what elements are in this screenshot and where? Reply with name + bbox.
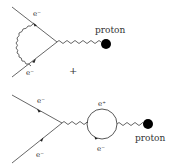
- fermion-loop: [87, 109, 117, 139]
- label-electron-in: e⁻: [36, 151, 44, 159]
- proton-blob: [143, 119, 153, 129]
- arrow-lower-icon: [40, 137, 44, 142]
- fermion-line-lower: [12, 42, 57, 77]
- plus-operator: +: [69, 65, 77, 76]
- label-proton: proton: [95, 25, 126, 35]
- label-loop-electron: e⁻: [97, 145, 105, 153]
- label-electron-out: e⁻: [37, 97, 45, 105]
- feynman-diagrams: proton e⁻ e⁻ + e⁺ e⁻ proton e⁻ e⁻: [0, 0, 170, 166]
- diagram-vacuum-polarization: e⁺ e⁻ proton e⁻ e⁻: [12, 95, 166, 163]
- photon-line-left: [62, 122, 88, 125]
- label-electron-out: e⁻: [33, 10, 41, 18]
- proton-blob: [101, 39, 111, 49]
- label-proton: proton: [135, 133, 166, 143]
- photon-line: [57, 41, 101, 44]
- photon-loop: [16, 24, 33, 66]
- label-electron-in: e⁻: [26, 69, 34, 77]
- photon-line-right: [117, 123, 144, 126]
- label-positron: e⁺: [98, 100, 106, 108]
